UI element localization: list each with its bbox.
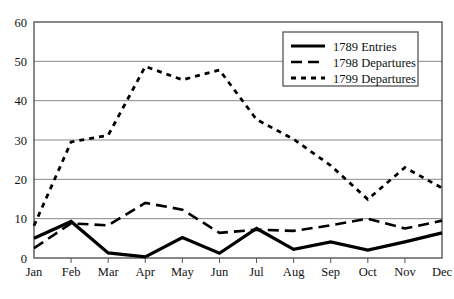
x-tick-label: Dec [432, 265, 453, 279]
y-tick-label: 0 [21, 252, 27, 266]
x-tick-label: Apr [136, 265, 156, 279]
x-tick-label: Jun [211, 265, 229, 279]
series-line [34, 66, 442, 225]
legend-label: 1798 Departures [333, 56, 416, 70]
y-tick-label: 10 [15, 212, 28, 226]
legend-label: 1799 Departures [333, 72, 416, 86]
x-tick-label: Aug [283, 265, 305, 279]
x-tick-label: Mar [98, 265, 120, 279]
y-tick-label: 60 [15, 16, 28, 30]
x-tick-label: Oct [359, 265, 378, 279]
line-chart: 0102030405060JanFebMarAprMayJunJulAugSep… [0, 0, 454, 299]
x-tick-label: Sep [321, 265, 340, 279]
x-tick-label: Jul [249, 265, 264, 279]
series-group [34, 66, 442, 256]
chart-canvas: 0102030405060JanFebMarAprMayJunJulAugSep… [0, 0, 454, 299]
y-tick-label: 20 [15, 173, 28, 187]
x-tick-label: Nov [394, 265, 416, 279]
x-tick-label: Feb [62, 265, 81, 279]
y-axis: 0102030405060 [15, 16, 28, 266]
y-tick-label: 50 [15, 55, 28, 69]
legend-label: 1789 Entries [333, 40, 397, 54]
x-tick-label: Jan [26, 265, 43, 279]
series-line [34, 221, 442, 256]
y-tick-label: 40 [15, 94, 28, 108]
y-tick-label: 30 [15, 134, 28, 148]
x-tick-label: May [171, 265, 195, 279]
x-axis: JanFebMarAprMayJunJulAugSepOctNovDec [26, 258, 453, 279]
legend: 1789 Entries1798 Departures1799 Departur… [283, 32, 418, 86]
